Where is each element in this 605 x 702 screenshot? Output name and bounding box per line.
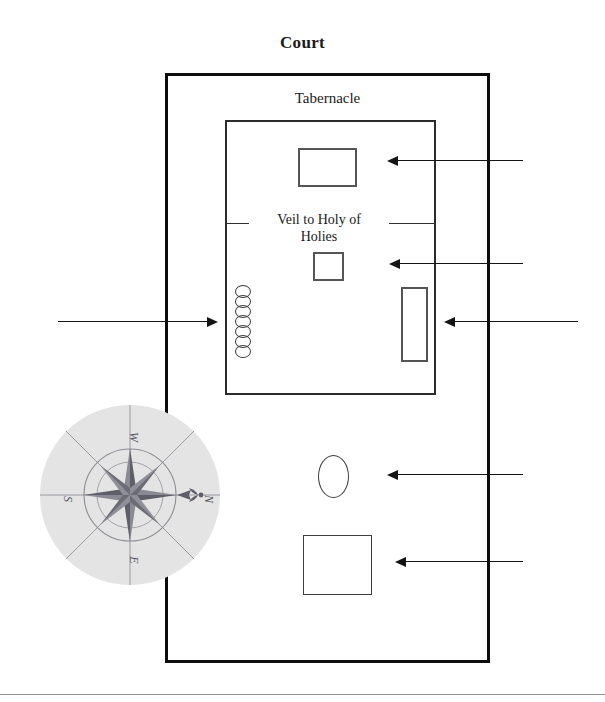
arrow-to-incense-line <box>398 263 523 264</box>
arrow-to-laver-head <box>387 470 398 480</box>
compass-label-left: S <box>61 496 75 502</box>
label-veil: Veil to Holy of Holies <box>252 211 386 245</box>
diagram-canvas: Court Tabernacle Veil to Holy of Holies <box>0 0 605 702</box>
arrow-to-lampstand-head <box>207 317 218 327</box>
laver-shape <box>318 455 349 498</box>
arrow-to-ark-head <box>387 156 398 166</box>
arrow-to-altar-line <box>404 561 523 562</box>
footer-divider <box>0 694 605 695</box>
compass-label-top: W <box>127 432 141 443</box>
label-veil-line-2: Holies <box>252 228 386 245</box>
label-veil-line-1: Veil to Holy of <box>252 211 386 228</box>
arrow-to-ark-line <box>396 160 523 161</box>
arrow-to-table-line <box>453 321 578 322</box>
arrow-to-altar-head <box>395 557 406 567</box>
compass-label-right: N <box>202 494 216 504</box>
ark-of-the-covenant-shape <box>298 148 357 187</box>
veil-line-right-segment <box>389 223 436 224</box>
table-of-showbread-shape <box>401 287 428 362</box>
compass-label-bottom: E <box>127 555 141 564</box>
compass-rose: W N E S <box>39 404 221 586</box>
veil-line-left-segment <box>227 223 249 224</box>
page-title-court: Court <box>0 33 605 53</box>
arrow-to-lampstand-line <box>58 321 209 322</box>
arrow-to-incense-head <box>389 259 400 269</box>
altar-of-incense-shape <box>313 252 344 281</box>
lampstand-lamp-7 <box>235 345 251 358</box>
arrow-to-laver-line <box>396 474 523 475</box>
altar-of-burnt-offering-shape <box>303 535 372 595</box>
arrow-to-table-head <box>444 317 455 327</box>
